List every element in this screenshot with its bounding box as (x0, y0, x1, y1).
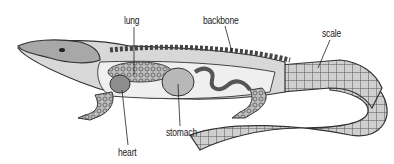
front-leg (78, 92, 113, 120)
label-lung: lung (124, 15, 139, 26)
label-stomach: stomach (166, 127, 197, 138)
tail-upper (280, 60, 382, 108)
crocodile-illustration (0, 0, 394, 164)
label-heart: heart (118, 147, 137, 158)
label-backbone: backbone (203, 15, 239, 26)
heart-organ (110, 75, 130, 93)
crocodile-anatomy-diagram: lung backbone scale heart stomach (0, 0, 394, 164)
label-scale: scale (322, 28, 341, 39)
eye (59, 48, 65, 52)
heart-leader-line (122, 90, 128, 145)
